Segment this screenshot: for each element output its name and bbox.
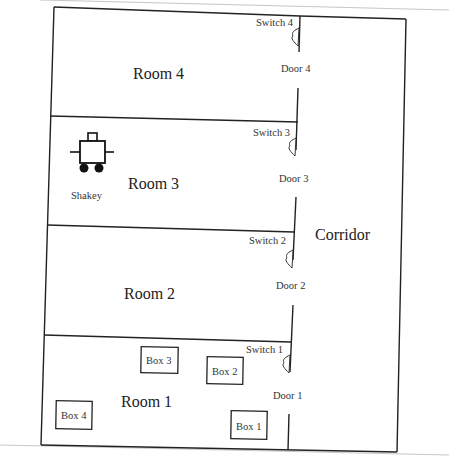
switch-2-label: Switch 2 (249, 235, 286, 246)
door-4-label: Door 4 (281, 63, 311, 74)
box-3[interactable]: Box 3 (141, 347, 178, 374)
room-4-label: Room 4 (133, 65, 184, 82)
switch-4-label: Switch 4 (256, 17, 294, 28)
switch-4-icon[interactable] (292, 28, 299, 46)
switch-3-label: Switch 3 (253, 127, 290, 138)
shakey-robot-icon[interactable] (70, 133, 114, 173)
box-2[interactable]: Box 2 (207, 357, 243, 385)
box-3-label: Box 3 (146, 355, 171, 366)
room-1-label: Room 1 (121, 393, 172, 410)
room-2-label: Room 2 (124, 285, 175, 302)
corridor-wall (288, 16, 300, 450)
scan-artifact-bottom (0, 445, 449, 455)
box-2-label: Box 2 (212, 366, 237, 377)
corridor-label: Corridor (315, 226, 371, 243)
door-3-label: Door 3 (279, 173, 308, 184)
shakey-label: Shakey (71, 190, 103, 201)
door-2-label: Door 2 (276, 280, 305, 291)
switch-3-icon[interactable] (289, 138, 296, 156)
box-4[interactable]: Box 4 (56, 401, 92, 430)
box-1[interactable]: Box 1 (231, 411, 267, 440)
switch-1-label: Switch 1 (246, 344, 283, 355)
door-1-label: Door 1 (273, 390, 302, 401)
box-1-label: Box 1 (236, 421, 261, 432)
switch-2-icon[interactable] (286, 250, 293, 268)
switch-1-icon[interactable] (283, 355, 290, 373)
room-3-label: Room 3 (128, 175, 179, 192)
box-4-label: Box 4 (61, 410, 87, 421)
floor-plan-diagram: Room 4 Room 3 Room 2 Room 1 Switch 4 Swi… (0, 0, 449, 458)
